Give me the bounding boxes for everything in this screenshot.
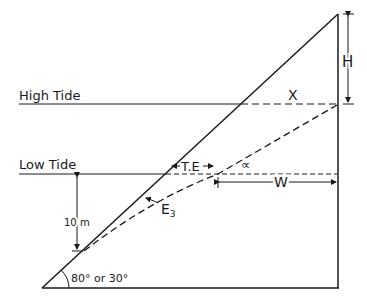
te-label: T.E	[180, 159, 200, 174]
e3-leader-arrow	[146, 198, 158, 203]
e3-label: E3	[161, 201, 176, 219]
high-tide-label: High Tide	[19, 88, 80, 103]
h-label: H	[342, 53, 353, 71]
tide-diagram: High Tide Low Tide H X T.E ∝ W E3 10 m 8…	[0, 0, 367, 304]
alpha-label: ∝	[241, 157, 250, 172]
depth-label: 10 m	[64, 217, 90, 228]
dashed-profile-curve	[84, 105, 337, 251]
x-label: X	[288, 87, 298, 103]
angle-arc	[61, 270, 69, 288]
w-label: W	[274, 174, 288, 190]
low-tide-label: Low Tide	[19, 157, 76, 172]
angle-label: 80° or 30°	[71, 272, 128, 285]
slope-line	[42, 14, 338, 288]
